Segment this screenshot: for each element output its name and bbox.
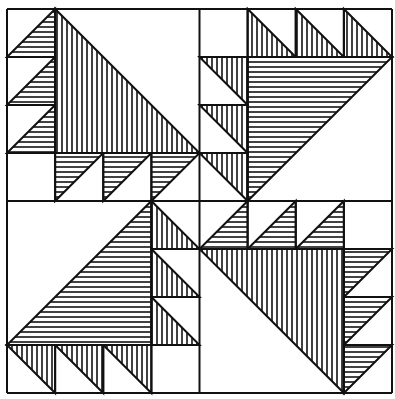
small-triangle [151, 153, 199, 201]
big-triangle-top-right [248, 57, 392, 201]
small-triangle [296, 201, 344, 249]
small-triangle [344, 249, 392, 297]
small-triangle [151, 249, 199, 297]
small-triangle [55, 345, 103, 393]
small-triangle [55, 153, 103, 201]
small-triangle [151, 201, 199, 249]
small-triangle [151, 297, 199, 345]
big-triangle-bottom-left [7, 201, 151, 345]
big-triangle-bottom-right [200, 249, 344, 393]
small-triangle [296, 9, 344, 57]
quilt-shapes [7, 9, 392, 393]
small-triangle [344, 297, 392, 345]
small-triangle [7, 345, 55, 393]
small-triangle [103, 153, 151, 201]
small-triangle [7, 57, 55, 105]
small-triangle [248, 9, 296, 57]
small-triangle [7, 105, 55, 153]
small-triangle [344, 9, 392, 57]
small-triangle [344, 345, 392, 393]
small-triangle [200, 105, 248, 153]
small-triangle [200, 57, 248, 105]
quilt-block-drawing [0, 0, 395, 399]
small-triangle [248, 201, 296, 249]
small-triangle [200, 153, 248, 201]
small-triangle [103, 345, 151, 393]
small-triangle [200, 201, 248, 249]
small-triangle [7, 9, 55, 57]
big-triangle-top-left [55, 9, 199, 153]
